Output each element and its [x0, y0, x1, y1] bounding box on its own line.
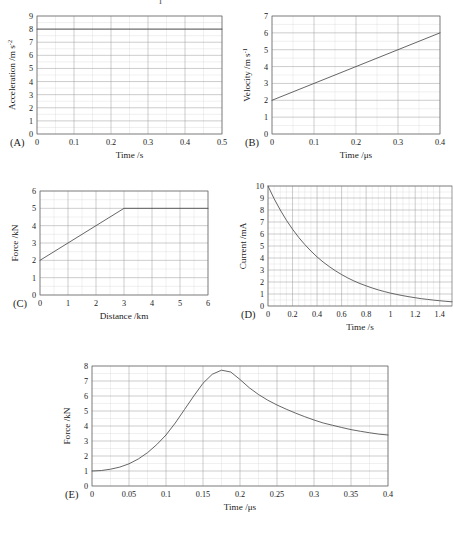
y-tick-label: 4: [260, 254, 264, 263]
x-axis-title: Time /s: [346, 322, 374, 332]
y-tick-label: 3: [29, 91, 33, 100]
x-tick-label: 0.15: [196, 490, 210, 499]
x-tick-label: 3: [122, 299, 126, 308]
y-tick-label: 3: [260, 266, 264, 275]
y-tick-label: 10: [256, 182, 264, 191]
y-tick-label: 8: [260, 206, 264, 215]
x-tick-label: 0: [90, 490, 94, 499]
x-tick-label: 0.05: [122, 490, 136, 499]
y-tick-label: 6: [32, 187, 36, 196]
y-axis-title: Acceleration /m s-2: [6, 40, 17, 110]
y-tick-label: 9: [29, 12, 33, 21]
x-tick-label: 1: [389, 310, 393, 319]
x-tick-label: 0.4: [180, 138, 190, 147]
panel-label: (A): [10, 137, 25, 149]
x-tick-label: 0.5: [217, 138, 227, 147]
y-tick-label: 3: [84, 437, 88, 446]
y-tick-label: 6: [84, 392, 88, 401]
top-edge-artifact: I: [159, 0, 162, 6]
x-tick-label: 0: [270, 138, 274, 147]
panel-d: 01234567891000.20.40.60.811.21.4Time /sC…: [228, 178, 453, 342]
y-tick-label: 6: [29, 51, 33, 60]
y-tick-label: 2: [84, 452, 88, 461]
x-tick-label: 2: [94, 299, 98, 308]
panel-b: 0123456700.10.20.30.4Time /μsVelocity /m…: [228, 8, 448, 170]
y-axis-title: Force /kN: [62, 407, 72, 444]
x-tick-label: 5: [178, 299, 182, 308]
x-tick-label: 1: [66, 299, 70, 308]
x-tick-label: 0.3: [309, 490, 319, 499]
x-tick-label: 0.1: [161, 490, 171, 499]
y-tick-label: 0: [29, 130, 33, 139]
y-tick-label: 5: [260, 242, 264, 251]
y-tick-label: 2: [29, 104, 33, 113]
y-tick-label: 0: [32, 291, 36, 300]
x-tick-label: 0.8: [361, 310, 371, 319]
y-tick-label: 5: [32, 204, 36, 213]
y-tick-label: 0: [84, 482, 88, 491]
y-tick-label: 7: [260, 218, 264, 227]
panel-label: (E): [65, 489, 79, 501]
chart-c: 01234560123456Distance /kmForce /kN(C): [0, 183, 216, 331]
panel-c: 01234560123456Distance /kmForce /kN(C): [0, 183, 216, 331]
y-axis-title: Velocity /m s-1: [241, 48, 252, 102]
y-axis-title: Current /mA: [238, 222, 248, 269]
panel-a: 012345678900.10.20.30.40.5Time /sAcceler…: [0, 8, 230, 170]
y-tick-label: 3: [264, 79, 268, 88]
x-tick-label: 0.2: [235, 490, 245, 499]
panel-label: (C): [13, 298, 28, 310]
x-tick-label: 0.1: [309, 138, 319, 147]
x-axis-title: Distance /km: [100, 311, 149, 321]
x-tick-label: 0.4: [383, 490, 393, 499]
y-tick-label: 1: [32, 274, 36, 283]
x-tick-label: 1.2: [410, 310, 420, 319]
y-tick-label: 0: [264, 130, 268, 139]
y-tick-label: 2: [264, 96, 268, 105]
x-tick-label: 1.4: [435, 310, 445, 319]
x-tick-label: 0.2: [106, 138, 116, 147]
y-tick-label: 4: [264, 63, 268, 72]
chart-b: 0123456700.10.20.30.4Time /μsVelocity /m…: [228, 8, 448, 170]
y-tick-label: 3: [32, 239, 36, 248]
panel-label: (B): [245, 137, 260, 149]
chart-e: 01234567800.050.10.150.20.250.30.350.4Ti…: [52, 358, 396, 522]
y-tick-label: 1: [260, 290, 264, 299]
y-tick-label: 1: [264, 113, 268, 122]
y-tick-label: 6: [264, 29, 268, 38]
y-tick-label: 4: [32, 222, 36, 231]
x-tick-label: 0.2: [351, 138, 361, 147]
x-axis-title: Time /μs: [224, 502, 257, 512]
y-tick-label: 5: [264, 46, 268, 55]
y-tick-label: 4: [29, 78, 33, 87]
y-tick-label: 6: [260, 230, 264, 239]
panel-e: 01234567800.050.10.150.20.250.30.350.4Ti…: [52, 358, 396, 522]
y-axis-title: Force /kN: [10, 224, 20, 261]
x-tick-label: 0.3: [143, 138, 153, 147]
x-axis-title: Time /μs: [340, 150, 373, 160]
x-tick-label: 0.2: [287, 310, 297, 319]
y-tick-label: 7: [264, 12, 268, 21]
y-tick-label: 4: [84, 422, 88, 431]
y-tick-label: 5: [84, 407, 88, 416]
y-tick-label: 1: [84, 467, 88, 476]
x-tick-label: 6: [206, 299, 210, 308]
x-tick-label: 0.1: [69, 138, 79, 147]
y-tick-label: 7: [29, 38, 33, 47]
y-tick-label: 7: [84, 377, 88, 386]
x-tick-label: 0.4: [435, 138, 445, 147]
x-tick-label: 0: [35, 138, 39, 147]
y-tick-label: 1: [29, 117, 33, 126]
y-tick-label: 8: [29, 25, 33, 34]
x-tick-label: 0.3: [393, 138, 403, 147]
y-tick-label: 5: [29, 64, 33, 73]
x-tick-label: 0: [266, 310, 270, 319]
x-axis-title: Time /s: [116, 150, 144, 160]
chart-d: 01234567891000.20.40.60.811.21.4Time /sC…: [228, 178, 453, 342]
x-tick-label: 0.25: [270, 490, 284, 499]
y-tick-label: 2: [32, 256, 36, 265]
x-tick-label: 0.35: [344, 490, 358, 499]
y-tick-label: 0: [260, 302, 264, 311]
x-tick-label: 0: [38, 299, 42, 308]
y-tick-label: 2: [260, 278, 264, 287]
x-tick-label: 0.4: [312, 310, 322, 319]
